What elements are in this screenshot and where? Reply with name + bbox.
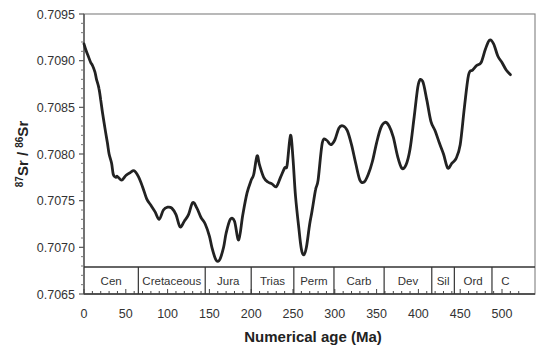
strontium-isotope-chart: 0.70650.70700.70750.70800.70850.70900.70… — [0, 0, 548, 355]
period-label-sil: Sil — [437, 275, 450, 287]
x-tick-label: 50 — [119, 307, 133, 321]
period-label-trias: Trias — [260, 275, 285, 287]
x-tick-label: 100 — [157, 307, 178, 321]
period-label-cretaceous: Cretaceous — [142, 275, 201, 287]
period-label-carb: Carb — [347, 275, 372, 287]
period-label-perm: Perm — [300, 275, 327, 287]
period-label-cen: Cen — [101, 275, 122, 287]
y-tick-label: 0.7095 — [37, 8, 75, 22]
x-tick-label: 0 — [81, 307, 88, 321]
y-axis-title-base2: Sr — [14, 121, 31, 137]
x-tick-label: 400 — [408, 307, 429, 321]
period-label-ord: Ord — [464, 275, 483, 287]
y-tick-label: 0.7080 — [37, 148, 75, 162]
x-tick-label: 450 — [450, 307, 471, 321]
period-label-dev: Dev — [398, 275, 419, 287]
x-tick-label: 500 — [492, 307, 513, 321]
y-tick-label: 0.7085 — [37, 101, 75, 115]
y-tick-label: 0.7090 — [37, 54, 75, 68]
x-tick-label: 350 — [366, 307, 387, 321]
y-axis-title-sup2: 86 — [14, 136, 25, 148]
y-axis-title-sup1: 87 — [14, 176, 25, 188]
period-label-c: C — [501, 275, 509, 287]
x-tick-label: 300 — [324, 307, 345, 321]
y-axis-title-base1: Sr / — [14, 148, 31, 176]
x-tick-label: 200 — [241, 307, 262, 321]
y-tick-label: 0.7065 — [37, 288, 75, 302]
x-axis-title: Numerical age (Ma) — [244, 328, 382, 345]
x-tick-label: 250 — [283, 307, 304, 321]
period-label-jura: Jura — [217, 275, 240, 287]
y-tick-label: 0.7070 — [37, 241, 75, 255]
y-tick-label: 0.7075 — [37, 194, 75, 208]
x-tick-label: 150 — [199, 307, 220, 321]
chart-background — [0, 0, 548, 355]
